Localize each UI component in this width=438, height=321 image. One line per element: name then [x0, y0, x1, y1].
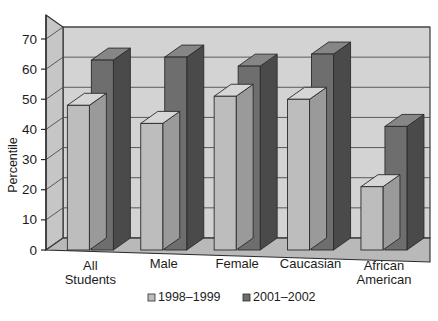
bar-column-s1-4	[361, 175, 400, 250]
legend-swatch	[243, 294, 250, 301]
left-wall	[46, 15, 63, 250]
category-label: Male	[150, 256, 178, 271]
bar-column-s1-0	[67, 93, 106, 250]
bar-side-face	[383, 175, 400, 250]
y-tick-label: 10	[22, 212, 37, 227]
category-labels: AllStudentsMaleFemaleCaucasianAfricanAme…	[65, 256, 412, 287]
category-label: Caucasian	[280, 256, 341, 271]
legend-swatch	[148, 294, 155, 301]
bar-side-face	[163, 111, 180, 250]
bar-side-face	[89, 93, 106, 250]
category-label: Female	[215, 256, 258, 271]
bar-side-face	[113, 48, 130, 250]
bar-side-face	[260, 54, 277, 250]
bar-front-face	[361, 187, 383, 250]
bar-front-face	[67, 105, 89, 250]
y-axis-title: Percentile	[6, 137, 20, 193]
bar-side-face	[310, 87, 327, 250]
y-tick-label: 50	[22, 92, 37, 107]
bar-chart: 010203040506070 AllStudentsMaleFemaleCau…	[0, 0, 438, 321]
bar-front-face	[214, 96, 236, 250]
y-tick-label: 30	[22, 152, 37, 167]
bar-column-s1-3	[288, 87, 327, 250]
bar-column-s1-1	[141, 111, 180, 250]
bar-side-face	[187, 45, 204, 250]
category-label: AllStudents	[65, 258, 117, 287]
chart-legend: 1998–19992001–2002	[148, 290, 316, 304]
bar-column-s1-2	[214, 84, 253, 250]
y-tick-label: 0	[29, 243, 37, 258]
y-axis-ticks: 010203040506070	[22, 32, 46, 258]
y-tick-label: 40	[22, 122, 37, 137]
y-tick-label: 20	[22, 182, 37, 197]
bar-side-face	[407, 114, 424, 250]
legend-label: 2001–2002	[253, 290, 316, 304]
y-tick-label: 60	[22, 62, 37, 77]
bar-side-face	[236, 84, 253, 250]
legend-label: 1998–1999	[158, 290, 221, 304]
bar-side-face	[334, 42, 351, 250]
bar-front-face	[288, 99, 310, 250]
category-label: AfricanAmerican	[356, 258, 411, 287]
chart-canvas: 010203040506070 AllStudentsMaleFemaleCau…	[0, 0, 438, 321]
y-tick-label: 70	[22, 32, 37, 47]
bar-front-face	[141, 123, 163, 250]
